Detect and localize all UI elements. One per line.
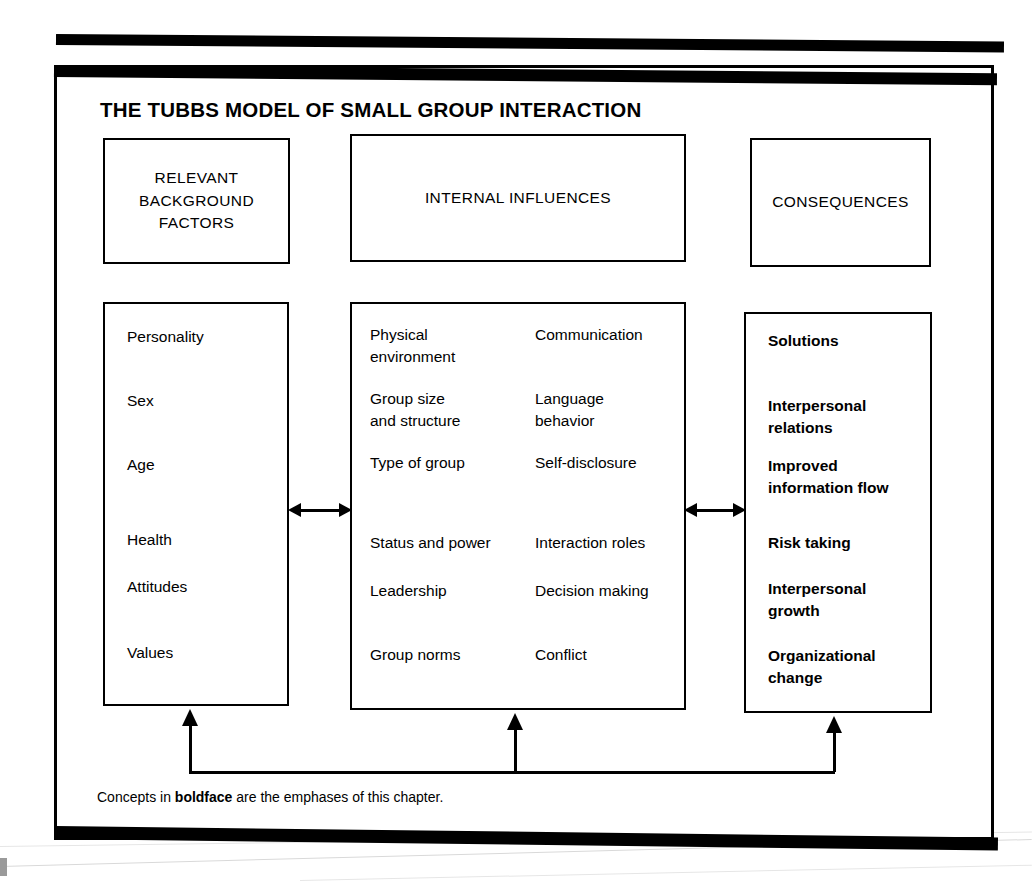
header-label-internal-influences: INTERNAL INFLUENCES bbox=[425, 187, 611, 209]
list-item: Age bbox=[127, 454, 155, 476]
list-item: Values bbox=[127, 642, 173, 664]
caption-emphasis: boldface bbox=[175, 789, 233, 805]
list-item: Solutions bbox=[768, 330, 839, 352]
list-item: Self-disclosure bbox=[535, 452, 637, 474]
feedback-loop-riser-right bbox=[833, 733, 836, 772]
arrow-shaft bbox=[693, 509, 737, 512]
list-item: Personality bbox=[127, 326, 204, 348]
feedback-loop-riser-left bbox=[189, 726, 192, 772]
page-edge-mark bbox=[0, 858, 7, 876]
body-box-relevant-background-factors: Personality Sex Age Health Attitudes Val… bbox=[103, 302, 289, 706]
double-arrow-icon-internal-to-consequences bbox=[684, 503, 746, 517]
diagram-page: THE TUBBS MODEL OF SMALL GROUP INTERACTI… bbox=[0, 0, 1032, 886]
item-list-background-factors: Personality Sex Age Health Attitudes Val… bbox=[105, 304, 287, 704]
list-item: Attitudes bbox=[127, 576, 187, 598]
caption: Concepts in boldface are the emphases of… bbox=[97, 789, 443, 805]
feedback-arrowhead-to-consequences bbox=[826, 716, 842, 733]
scan-artifact-line bbox=[300, 865, 1032, 881]
list-item: Sex bbox=[127, 390, 154, 412]
caption-suffix: are the emphases of this chapter. bbox=[232, 789, 443, 805]
header-box-relevant-background-factors: RELEVANT BACKGROUND FACTORS bbox=[103, 138, 290, 264]
list-item: Organizational change bbox=[768, 645, 876, 689]
arrowhead-right bbox=[733, 503, 746, 517]
feedback-loop-riser-middle bbox=[514, 730, 517, 772]
list-item: Interpersonal growth bbox=[768, 578, 866, 622]
page-title: THE TUBBS MODEL OF SMALL GROUP INTERACTI… bbox=[100, 98, 641, 122]
body-box-internal-influences: Physical environment Group size and stru… bbox=[350, 302, 686, 710]
arrow-shaft bbox=[297, 509, 343, 512]
list-item: Decision making bbox=[535, 580, 649, 602]
header-box-internal-influences: INTERNAL INFLUENCES bbox=[350, 134, 686, 262]
double-arrow-icon-background-to-internal bbox=[288, 503, 352, 517]
body-box-consequences: Solutions Interpersonal relations Improv… bbox=[744, 312, 932, 713]
list-item: Health bbox=[127, 529, 172, 551]
top-rule bbox=[56, 34, 1004, 52]
header-label-consequences: CONSEQUENCES bbox=[772, 191, 909, 213]
feedback-arrowhead-to-background bbox=[182, 709, 198, 726]
list-item: Risk taking bbox=[768, 532, 851, 554]
list-item: Communication bbox=[535, 324, 643, 346]
feedback-loop-baseline bbox=[189, 771, 835, 774]
feedback-arrowhead-to-internal bbox=[507, 713, 523, 730]
header-box-consequences: CONSEQUENCES bbox=[750, 138, 931, 267]
list-item: Interaction roles bbox=[535, 532, 645, 554]
item-list-consequences: Solutions Interpersonal relations Improv… bbox=[746, 314, 930, 711]
arrowhead-right bbox=[339, 503, 352, 517]
list-item: Language behavior bbox=[535, 388, 604, 432]
header-label-relevant-background-factors: RELEVANT BACKGROUND FACTORS bbox=[139, 167, 254, 234]
caption-prefix: Concepts in bbox=[97, 789, 175, 805]
list-item: Improved information flow bbox=[768, 455, 889, 499]
list-item: Conflict bbox=[535, 644, 587, 666]
item-list-internal-influences-right: Communication Language behavior Self-dis… bbox=[352, 304, 684, 708]
list-item: Interpersonal relations bbox=[768, 395, 866, 439]
